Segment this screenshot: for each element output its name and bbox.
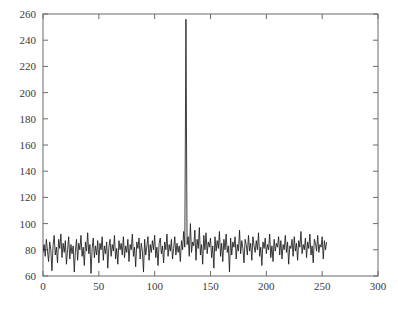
x-tick-label: 50 [93,280,105,292]
x-tick-label: 100 [146,280,163,292]
x-tick-label: 250 [314,280,331,292]
x-tick-label: 300 [370,280,387,292]
x-tick-label: 200 [258,280,275,292]
y-tick-label: 160 [20,139,37,151]
y-tick-label: 180 [20,113,37,125]
y-tick-label: 140 [20,165,37,177]
y-tick-label: 220 [20,60,37,72]
x-tick-label: 150 [202,280,219,292]
y-tick-label: 240 [20,34,37,46]
y-tick-label: 60 [25,270,37,282]
chart-figure: 050100150200250300 608010012014016018020… [0,0,398,311]
line-chart: 050100150200250300 608010012014016018020… [0,0,398,311]
y-tick-label: 120 [20,191,37,203]
y-tick-label: 80 [25,244,37,256]
y-tick-label: 260 [20,8,37,20]
y-tick-label: 200 [20,87,37,99]
y-tick-label: 100 [20,218,37,230]
x-tick-label: 0 [40,280,46,292]
chart-background [0,0,398,311]
